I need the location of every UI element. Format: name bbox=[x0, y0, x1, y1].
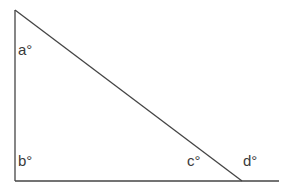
angle-label-a: a° bbox=[18, 42, 32, 57]
angle-label-d: d° bbox=[243, 153, 257, 168]
angle-label-c: c° bbox=[187, 153, 201, 168]
angle-label-b: b° bbox=[18, 153, 32, 168]
hypotenuse bbox=[15, 10, 242, 181]
